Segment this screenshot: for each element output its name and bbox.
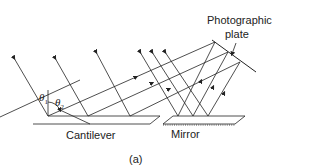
mirror-shape xyxy=(163,116,245,124)
theta2-label: θ2 xyxy=(55,97,64,111)
theta1-label: θ1 xyxy=(39,92,48,106)
cantilever-shape xyxy=(33,116,160,124)
panel-label: (a) xyxy=(129,154,142,165)
plate-label-line1: Photographic xyxy=(207,15,272,26)
cantilever-label: Cantilever xyxy=(66,130,116,141)
plate-label-line2: plate xyxy=(225,29,249,40)
mirror-label: Mirror xyxy=(171,129,200,140)
